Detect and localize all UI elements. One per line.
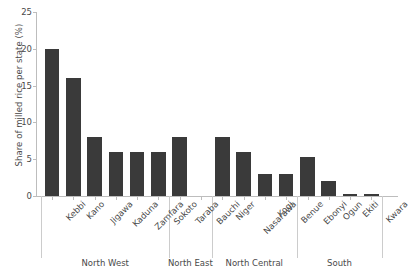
- zone-label: South: [327, 258, 352, 268]
- y-tick-mark: [33, 122, 36, 123]
- bar[interactable]: [130, 152, 145, 196]
- y-tick-label: 20: [21, 44, 32, 54]
- y-tick-mark: [33, 12, 36, 13]
- bar-slot[interactable]: [169, 12, 190, 196]
- x-tick-label: Kebbi: [64, 199, 88, 223]
- bar[interactable]: [172, 137, 187, 196]
- zone-label: North East: [168, 258, 213, 268]
- bar[interactable]: [87, 137, 102, 196]
- bar[interactable]: [45, 49, 60, 196]
- bar[interactable]: [66, 78, 81, 196]
- zone-label: North Central: [226, 258, 283, 268]
- zone-label: North West: [82, 258, 129, 268]
- x-tick-label: Kwara: [384, 199, 410, 225]
- x-axis-labels: KebbiKanoJigawaKadunaZamfaraSokotoTaraba…: [36, 199, 398, 249]
- y-tick-mark: [33, 86, 36, 87]
- bar-slot[interactable]: [105, 12, 126, 196]
- bar-slot[interactable]: [276, 12, 297, 196]
- bar-slot[interactable]: [361, 12, 382, 196]
- bar-slot[interactable]: [339, 12, 360, 196]
- bar[interactable]: [279, 174, 294, 196]
- bar-slot[interactable]: [127, 12, 148, 196]
- y-tick-mark: [33, 49, 36, 50]
- bar-series: [36, 12, 398, 196]
- y-tick-mark: [33, 159, 36, 160]
- bar-slot[interactable]: [212, 12, 233, 196]
- x-tick-label: Benue: [299, 199, 325, 225]
- bar-slot[interactable]: [297, 12, 318, 196]
- bar-slot[interactable]: [63, 12, 84, 196]
- y-axis-title: Share of milled rice per state (%): [14, 0, 24, 190]
- x-axis-line: [36, 196, 398, 197]
- zone-group-labels: North WestNorth EastNorth CentralSouth: [36, 258, 398, 274]
- bar-chart: Share of milled rice per state (%) 05101…: [0, 0, 416, 280]
- y-tick-label: 0: [27, 191, 32, 201]
- bar[interactable]: [236, 152, 251, 196]
- bar-slot[interactable]: [190, 12, 211, 196]
- bar-slot[interactable]: [233, 12, 254, 196]
- plot-area: 0510152025: [36, 12, 398, 196]
- x-tick-label: Ekiti: [360, 199, 380, 219]
- y-tick-mark: [33, 196, 36, 197]
- y-tick-label: 25: [21, 7, 32, 17]
- bar-slot[interactable]: [318, 12, 339, 196]
- bar-slot[interactable]: [84, 12, 105, 196]
- bar[interactable]: [109, 152, 124, 196]
- x-tick-label: Kano: [84, 199, 106, 221]
- y-tick-label: 10: [21, 117, 32, 127]
- bar[interactable]: [321, 181, 336, 196]
- bar[interactable]: [258, 174, 273, 196]
- bar-slot[interactable]: [254, 12, 275, 196]
- bar[interactable]: [151, 152, 166, 196]
- bar[interactable]: [300, 157, 315, 196]
- bar-slot[interactable]: [148, 12, 169, 196]
- x-tick-label: Taraba: [193, 199, 220, 226]
- bar[interactable]: [215, 137, 230, 196]
- y-tick-label: 5: [27, 154, 32, 164]
- y-tick-label: 15: [21, 81, 32, 91]
- bar-slot[interactable]: [41, 12, 62, 196]
